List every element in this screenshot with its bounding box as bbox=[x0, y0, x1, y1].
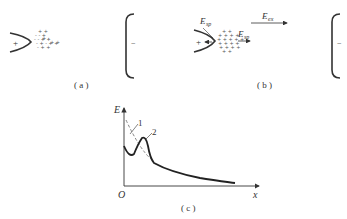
svg-text:ex: ex bbox=[268, 16, 274, 22]
svg-text:E: E bbox=[261, 11, 268, 21]
origin-label: O bbox=[118, 189, 125, 200]
svg-text:+ +: + + bbox=[38, 28, 48, 34]
svg-text:+ +: + + bbox=[222, 48, 232, 54]
y-axis-label: E bbox=[113, 104, 120, 115]
curve-1-leader bbox=[130, 124, 138, 134]
svg-text:+ -: + - bbox=[42, 35, 50, 41]
anode-sign: + bbox=[196, 37, 201, 47]
cathode-sign: − bbox=[131, 39, 136, 48]
panel-b: + E sp + + + + + + + + + + + + + + + + +… bbox=[194, 11, 342, 90]
svg-text:sp: sp bbox=[206, 21, 211, 27]
curve-2-label: 2 bbox=[152, 127, 157, 137]
external-field-label: E ex bbox=[261, 11, 274, 22]
panel-a-label: ( a ) bbox=[74, 80, 89, 90]
svg-text:- + +: - + + bbox=[37, 44, 50, 50]
panel-a: + - - + + + - - + + - + - + + - + + + - … bbox=[10, 14, 136, 90]
space-charge-field-label-2: E sp bbox=[237, 29, 249, 40]
panel-c-label: ( c ) bbox=[181, 203, 196, 213]
svg-text:E: E bbox=[199, 16, 206, 26]
space-charge-field-label-1: E sp bbox=[199, 16, 211, 27]
curve-2-solid bbox=[124, 138, 235, 183]
panel-c: E x O 1 2 ( c ) bbox=[113, 104, 259, 213]
panel-b-label: ( b ) bbox=[257, 80, 272, 90]
diagram-canvas: + - - + + + - - + + - + - + + - + + + - … bbox=[0, 0, 347, 219]
curve-1-label: 1 bbox=[138, 118, 143, 128]
space-charge-cloud: - - + + + - - + + - + - + + - + + + - + … bbox=[34, 28, 60, 50]
svg-text:+ +: + + bbox=[50, 39, 60, 45]
cathode-sign: − bbox=[337, 39, 342, 48]
svg-text:sp: sp bbox=[244, 34, 249, 40]
x-axis-label: x bbox=[252, 189, 258, 200]
svg-text:E: E bbox=[237, 29, 244, 39]
anode-sign: + bbox=[13, 38, 18, 48]
